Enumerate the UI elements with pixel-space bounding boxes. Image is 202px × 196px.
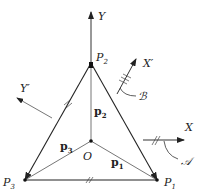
frame-b-label: ℬ <box>138 90 148 103</box>
p2-point <box>89 62 93 68</box>
diagram-canvas: Y X′ ℬ Y′ <box>0 0 202 196</box>
vector-p3-label: p3 <box>60 140 73 155</box>
p1-point <box>155 178 159 182</box>
p3-point <box>23 178 27 182</box>
x-axis <box>143 136 184 159</box>
y-axis-label: Y <box>98 10 107 23</box>
x-axis-label: X <box>184 121 194 134</box>
x-prime-label: X′ <box>142 57 154 70</box>
p2-label: P2 <box>95 51 108 66</box>
origin-point <box>89 139 93 143</box>
origin-label: O <box>83 150 92 163</box>
p1-label: P1 <box>163 176 176 191</box>
y-prime-label: Y′ <box>20 82 30 95</box>
frame-a-label: 𝒜 <box>181 155 195 168</box>
y-prime-axis <box>17 98 52 118</box>
triangle-frame-diagram: Y X′ ℬ Y′ <box>0 0 202 196</box>
edge-hatches <box>64 100 93 183</box>
vector-p2-label: p2 <box>94 105 107 120</box>
vector-p1-label: p1 <box>111 156 124 171</box>
p3-label: P3 <box>2 176 15 191</box>
x-prime-axis <box>117 59 136 96</box>
